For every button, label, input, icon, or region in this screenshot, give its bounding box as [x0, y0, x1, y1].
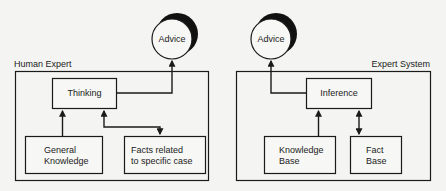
advice-label: Advice	[158, 34, 185, 44]
thinking-facts-bidirectional-arrow	[104, 111, 160, 134]
general-knowledge-label-line1: General	[44, 145, 76, 155]
inference-to-advice-arrow	[271, 61, 307, 93]
expert-system-title: Expert System	[371, 59, 430, 69]
thinking-label: Thinking	[67, 88, 101, 98]
facts-label-line1: Facts related	[131, 145, 183, 155]
thinking-to-advice-arrow	[117, 61, 173, 93]
general-knowledge-node: General Knowledge	[26, 137, 103, 174]
thinking-node: Thinking	[53, 79, 117, 109]
comparison-diagram: Human Expert Advice Thinking General Kno…	[0, 0, 446, 191]
knowledge-base-label-line2: Base	[279, 156, 300, 166]
inference-label: Inference	[320, 88, 358, 98]
fact-base-label-line1: Fact	[366, 145, 384, 155]
knowledge-base-label-line1: Knowledge	[279, 145, 324, 155]
system-advice-node: Advice	[251, 13, 297, 59]
inference-node: Inference	[307, 79, 372, 109]
fact-base-label-line2: Base	[366, 156, 387, 166]
human-expert-title: Human Expert	[14, 59, 72, 69]
human-advice-node: Advice	[152, 13, 198, 59]
fact-base-node: Fact Base	[351, 137, 402, 174]
knowledge-base-node: Knowledge Base	[265, 137, 336, 174]
human-expert-panel: Human Expert Advice Thinking General Kno…	[14, 13, 209, 181]
facts-label-line2: to specific case	[131, 156, 193, 166]
facts-node: Facts related to specific case	[125, 137, 206, 174]
advice-label: Advice	[257, 34, 284, 44]
general-knowledge-label-line2: Knowledge	[44, 156, 89, 166]
expert-system-panel: Expert System Advice Inference Knowledge…	[237, 13, 431, 181]
